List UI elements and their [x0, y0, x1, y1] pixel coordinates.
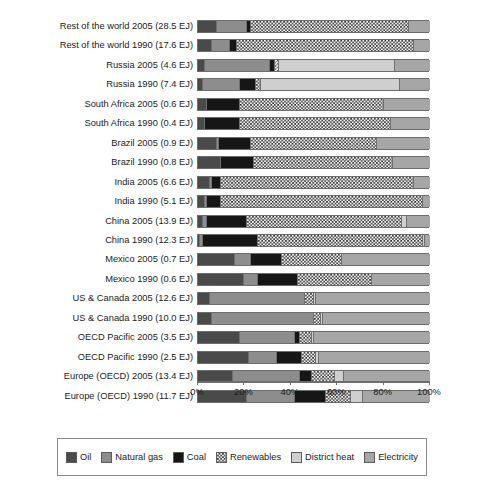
x-tick [383, 381, 384, 385]
x-tick-label: 20% [234, 387, 253, 398]
stacked-bar [197, 273, 429, 286]
bar-segment-renewables [221, 196, 423, 207]
bar-segment-oil [198, 332, 240, 343]
row-label: China 2005 (13.9 EJ) [105, 215, 193, 228]
x-tick [197, 381, 198, 385]
bar-segment-oil [198, 99, 207, 110]
bar-segment-renewables [247, 216, 402, 227]
bar-segment-renewables [251, 21, 409, 32]
bar-segment-natural-gas [203, 79, 240, 90]
bar-row-oecd-pacific-1990-2-5-ej: OECD Pacific 1990 (2.5 EJ) [197, 351, 429, 364]
bar-segment-oil [198, 157, 221, 168]
stacked-bar [197, 351, 429, 364]
bar-row-india-2005-6-6-ej: India 2005 (6.6 EJ) [197, 176, 429, 189]
bar-row-rest-of-the-world-1990-17-6-ej: Rest of the world 1990 (17.6 EJ) [197, 39, 429, 52]
bar-segment-natural-gas [212, 313, 314, 324]
bar-row-mexico-1990-0-6-ej: Mexico 1990 (0.6 EJ) [197, 273, 429, 286]
bar-segment-natural-gas [212, 40, 231, 51]
bar-segment-natural-gas [240, 332, 296, 343]
x-tick-label: 80% [373, 387, 392, 398]
row-label: OECD Pacific 2005 (3.5 EJ) [78, 331, 193, 344]
stacked-bar [197, 20, 429, 33]
stacked-bar [197, 117, 429, 130]
row-label: Europe (OECD) 2005 (13.4 EJ) [64, 370, 193, 383]
legend-item-electricity[interactable]: Electricity [364, 452, 418, 463]
row-label: OECD Pacific 1990 (2.5 EJ) [78, 351, 193, 364]
chart-legend: OilNatural gasCoalRenewablesDistrict hea… [57, 438, 427, 476]
legend-swatch-district-heat-icon [291, 452, 302, 463]
legend-swatch-electricity-icon [364, 452, 375, 463]
bar-segment-electricity [314, 332, 430, 343]
bar-row-russia-1990-7-4-ej: Russia 1990 (7.4 EJ) [197, 78, 429, 91]
bar-segment-coal [207, 99, 239, 110]
plot-area: Rest of the world 2005 (28.5 EJ)Rest of … [197, 20, 429, 380]
bar-segment-natural-gas [210, 293, 305, 304]
bar-segment-district-heat [351, 391, 363, 402]
stacked-bar [197, 195, 429, 208]
legend-swatch-natural-gas-icon [101, 452, 112, 463]
stacked-bar [197, 137, 429, 150]
row-label: US & Canada 1990 (10.0 EJ) [73, 312, 193, 325]
bar-segment-renewables [302, 352, 316, 363]
bar-segment-renewables [300, 332, 312, 343]
legend-item-coal[interactable]: Coal [173, 452, 206, 463]
bar-segment-coal [277, 352, 303, 363]
x-tick [429, 381, 430, 385]
bar-segment-oil [198, 177, 210, 188]
bar-segment-electricity [319, 352, 430, 363]
bar-segment-coal [258, 274, 297, 285]
bar-segment-renewables [298, 274, 372, 285]
legend-label: Oil [80, 452, 91, 463]
stacked-bar [197, 98, 429, 111]
bar-segment-electricity [316, 293, 430, 304]
bar-segment-renewables [221, 177, 414, 188]
row-label: India 2005 (6.6 EJ) [114, 176, 193, 189]
stacked-bar [197, 39, 429, 52]
bar-segment-electricity [393, 157, 430, 168]
bar-segment-electricity [409, 21, 430, 32]
bar-segment-oil [198, 138, 217, 149]
bar-segment-coal [207, 216, 246, 227]
stacked-bar [197, 390, 429, 403]
x-tick-label: 60% [327, 387, 346, 398]
legend-item-natural-gas[interactable]: Natural gas [101, 452, 163, 463]
bar-row-south-africa-2005-0-6-ej: South Africa 2005 (0.6 EJ) [197, 98, 429, 111]
bar-segment-natural-gas [244, 274, 258, 285]
bar-segment-coal [219, 138, 251, 149]
bar-segment-renewables [305, 293, 314, 304]
bar-segment-renewables [240, 99, 384, 110]
x-tick [290, 381, 291, 385]
row-label: Brazil 1990 (0.8 EJ) [111, 156, 193, 169]
stacked-bar-chart: Rest of the world 2005 (28.5 EJ)Rest of … [0, 0, 477, 504]
bar-segment-electricity [391, 118, 430, 129]
row-label: South Africa 2005 (0.6 EJ) [84, 98, 193, 111]
legend-item-district-heat[interactable]: District heat [291, 452, 354, 463]
legend-item-oil[interactable]: Oil [66, 452, 91, 463]
legend-item-renewables[interactable]: Renewables [216, 452, 281, 463]
bar-segment-oil [198, 118, 205, 129]
legend-label: Electricity [378, 452, 418, 463]
bar-segment-electricity [400, 79, 430, 90]
bar-segment-coal [251, 254, 281, 265]
stacked-bar [197, 59, 429, 72]
bar-segment-oil [198, 293, 210, 304]
bar-segment-oil [198, 196, 205, 207]
bar-segment-renewables [314, 313, 321, 324]
row-label: South Africa 1990 (0.4 EJ) [84, 117, 193, 130]
bar-segment-renewables [240, 118, 391, 129]
x-tick [336, 381, 337, 385]
bar-segment-oil [198, 313, 212, 324]
stacked-bar [197, 78, 429, 91]
legend-swatch-coal-icon [173, 452, 184, 463]
bar-segment-oil [198, 274, 244, 285]
bar-segment-coal [212, 177, 221, 188]
row-label: India 1990 (5.1 EJ) [114, 195, 193, 208]
row-label: Russia 2005 (4.6 EJ) [106, 59, 193, 72]
stacked-bar [197, 234, 429, 247]
bar-segment-electricity [323, 313, 430, 324]
bar-segment-electricity [395, 60, 430, 71]
bar-segment-electricity [342, 254, 430, 265]
bar-segment-electricity [377, 138, 430, 149]
bar-segment-oil [198, 21, 217, 32]
bar-segment-coal [230, 40, 237, 51]
